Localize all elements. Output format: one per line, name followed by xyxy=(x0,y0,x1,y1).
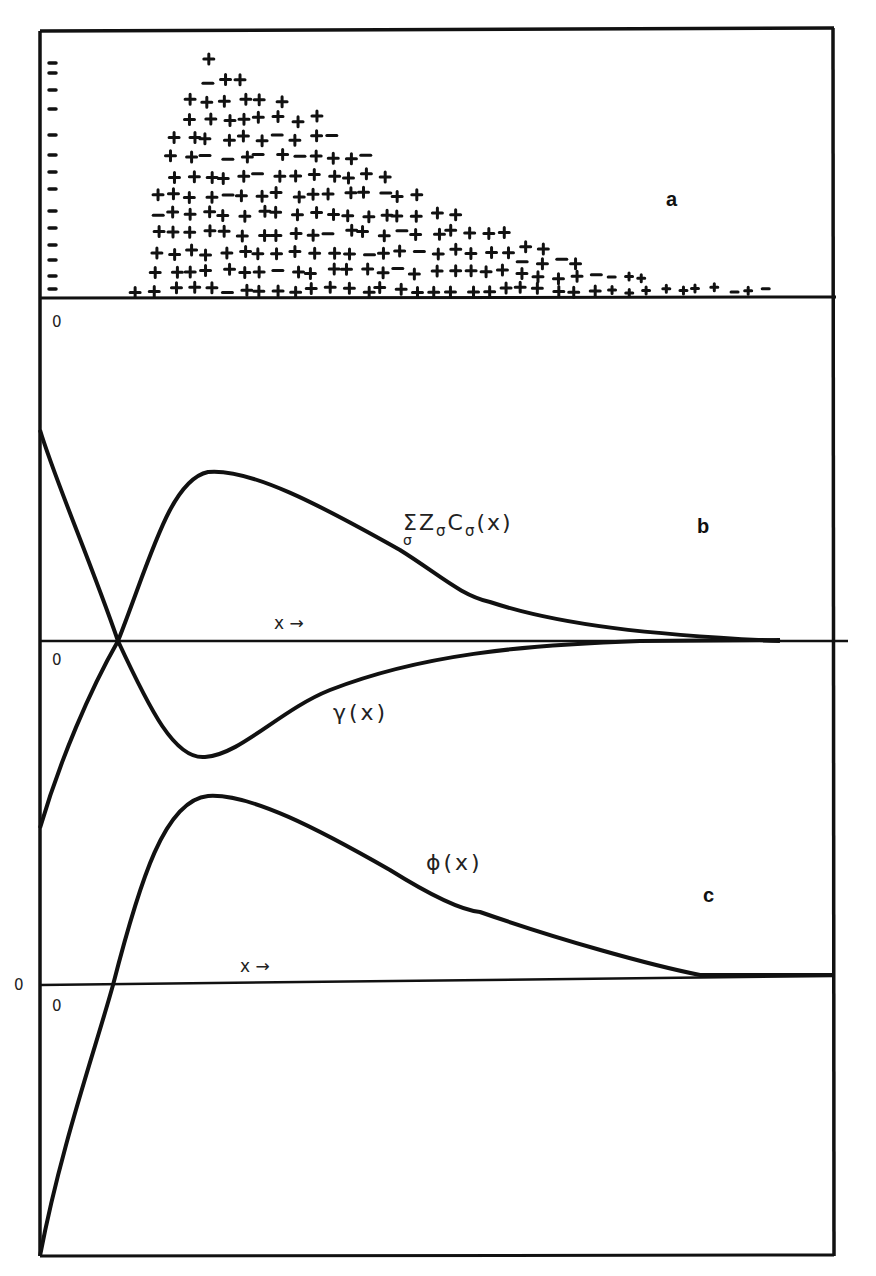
phi-label: ϕ(x) xyxy=(426,850,483,875)
panel-label-b: b xyxy=(697,515,709,538)
gamma-label: γ(x) xyxy=(333,700,388,725)
origin-label-c-outer: 0 xyxy=(14,976,24,994)
gamma-curve xyxy=(40,430,780,757)
panel-label-c: c xyxy=(703,884,714,907)
x-axis-arrow-c: x → xyxy=(240,956,270,976)
positive-charges xyxy=(130,54,769,298)
panel-a-baseline xyxy=(40,297,836,298)
panel-c-x-axis xyxy=(40,976,834,985)
figure-canvas xyxy=(0,0,876,1276)
sum-charge-label: ΣZσCσ(x) σ xyxy=(403,510,513,535)
origin-label-b: 0 xyxy=(52,651,62,669)
x-axis-arrow-b: x → xyxy=(274,613,304,633)
negative-charges xyxy=(49,63,56,289)
origin-label-a: 0 xyxy=(52,313,62,331)
origin-label-c-inner: 0 xyxy=(52,997,62,1015)
panel-label-a: a xyxy=(666,188,677,211)
